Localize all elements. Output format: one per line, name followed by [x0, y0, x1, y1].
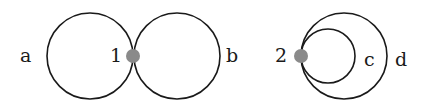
vertex-2 [294, 49, 308, 63]
loop-b [134, 13, 220, 99]
figure-vertex-1: a 1 b [20, 13, 238, 99]
vertex-1 [126, 49, 140, 63]
loop-c [301, 29, 355, 83]
graph-diagram: a 1 b 2 c d [0, 0, 423, 102]
loop-b-label: b [226, 44, 238, 66]
vertex-2-label: 2 [275, 44, 287, 66]
loop-c-label: c [364, 48, 375, 70]
vertex-1-label: 1 [110, 44, 122, 66]
loop-a-label: a [20, 44, 31, 66]
loop-d-label: d [395, 48, 407, 70]
figure-vertex-2: 2 c d [275, 13, 407, 99]
